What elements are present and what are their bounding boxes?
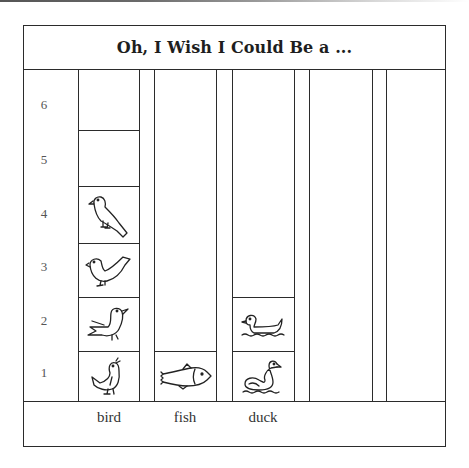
bird-row-line-4-5 [78,186,140,187]
y-tick-6: 6 [36,97,52,113]
duck-on-water-icon [233,298,294,351]
swan-icon [233,352,294,401]
y-tick-5: 5 [36,152,52,168]
pictograph-chart: Oh, I Wish I Could Be a ... 6 5 4 3 2 1 [23,25,446,447]
category-label-fish: fish [154,409,216,426]
y-tick-3: 3 [36,259,52,275]
scan-edge-artifact [0,0,469,2]
bird-row-line-5-6 [78,130,140,131]
y-tick-1: 1 [36,365,52,381]
bird-wing-up-icon [79,298,139,351]
category-label-duck: duck [232,409,294,426]
category-label-bird: bird [78,409,140,426]
column-5-left-line [386,70,387,401]
label-band-divider [24,401,445,402]
bird-tail-up-icon [79,244,139,297]
chart-title: Oh, I Wish I Could Be a ... [117,38,352,57]
y-tick-2: 2 [36,313,52,329]
y-tick-4: 4 [36,206,52,222]
column-4-right-line [372,70,373,401]
fish-icon [155,352,216,401]
title-band: Oh, I Wish I Could Be a ... [24,26,445,70]
bird-standing-icon [79,188,139,243]
bird-singing-icon [79,352,139,401]
column-4-left-line [309,70,310,401]
